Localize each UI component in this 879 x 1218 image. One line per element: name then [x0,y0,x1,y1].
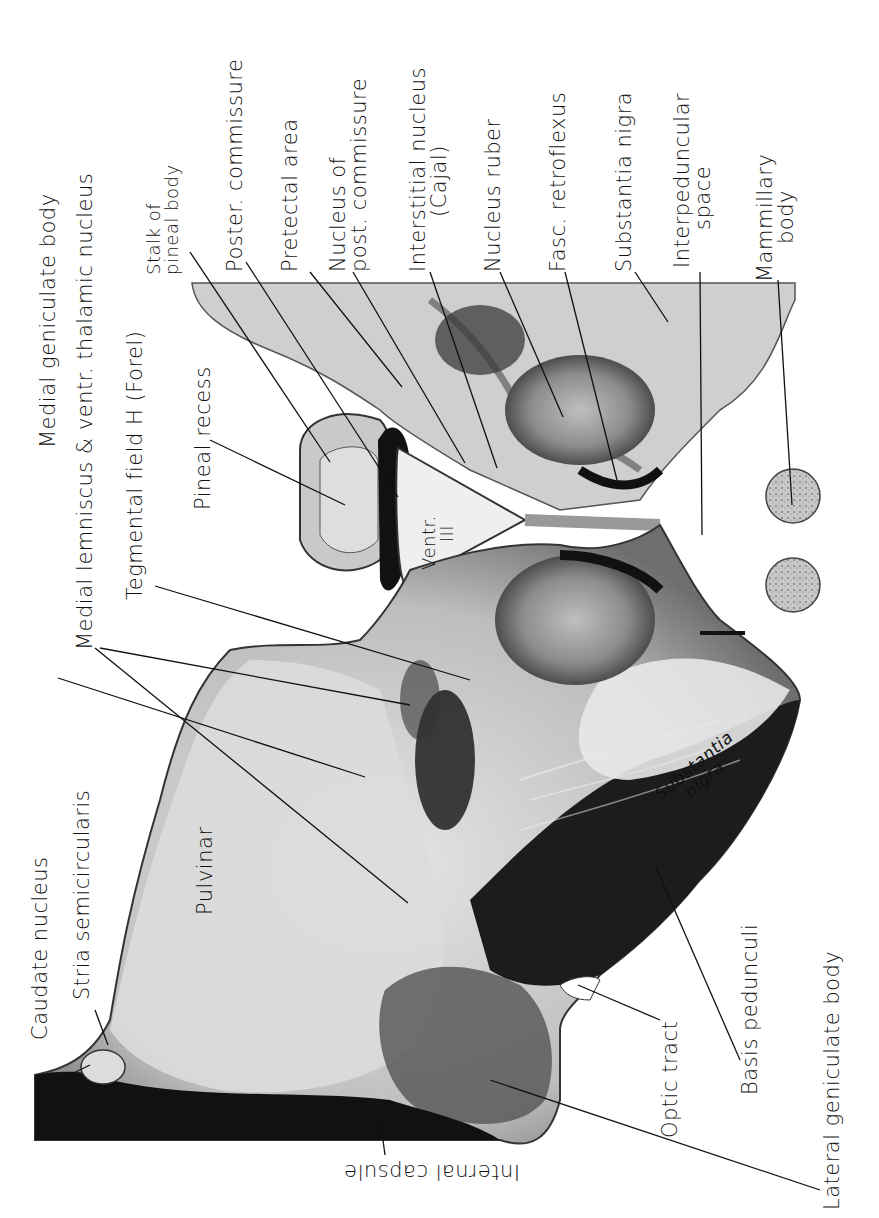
label-line-2: post. commissure [349,78,370,272]
label-basis-pedunculi: Basis pedunculi [740,924,761,1095]
label-internal-capsule: Internal capsule [344,1161,520,1182]
mammillary-body-1 [766,469,820,523]
label-line-1: Nucleus of [328,78,349,272]
label-pineal-recess: Pineal recess [193,366,214,510]
caudate-nucleus [81,1050,125,1084]
mammillary-body-2 [766,558,820,612]
nucleus-ruber-upper [505,355,655,465]
label-optic-tract: Optic tract [660,1021,681,1138]
label-stalk-of-pineal-body: Stalk of pineal body [145,164,181,275]
label-ventr-iii: Ventr. III [420,515,456,570]
label-pretectal-area: Pretectal area [280,118,301,272]
label-fasc-retroflexus: Fasc. retroflexus [548,92,569,272]
label-nucleus-ruber: Nucleus ruber [483,118,504,272]
label-line-2: body [776,154,797,282]
label-line-2: space [693,93,714,268]
label-line-2: (Cajal) [429,67,450,272]
label-line-2: III [438,515,456,570]
label-tegmental-field: Tegmental field H (Forel) [125,330,146,600]
label-line-1: Interpeduncular [672,93,693,268]
label-caudate-nucleus: Caudate nucleus [30,856,51,1040]
label-line-1: Interstitial nucleus [408,67,429,272]
label-lateral-geniculate-body: Lateral geniculate body [822,951,843,1210]
label-nucleus-of-post-commissure: Nucleus of post. commissure [328,78,370,272]
label-interpeduncular-space: Interpeduncular space [672,93,714,268]
label-interstitial-nucleus: Interstitial nucleus (Cajal) [408,67,450,272]
label-substantia-nigra: Substantia nigra [614,92,635,272]
label-stria-semicircularis: Stria semicircularis [72,790,93,1000]
label-poster-commissure: Poster. commissure [225,59,246,272]
label-line-1: Ventr. [420,515,438,570]
label-line-2: pineal body [163,164,181,275]
label-line-1: Mammillary [755,154,776,282]
label-medial-lemniscus: Medial lemniscus & ventr. thalamic nucle… [75,173,96,650]
label-medial-geniculate-body: Medial geniculate body [38,193,59,448]
label-pulvinar: Pulvinar [195,826,216,915]
label-mammillary-body: Mammillary body [755,154,797,282]
